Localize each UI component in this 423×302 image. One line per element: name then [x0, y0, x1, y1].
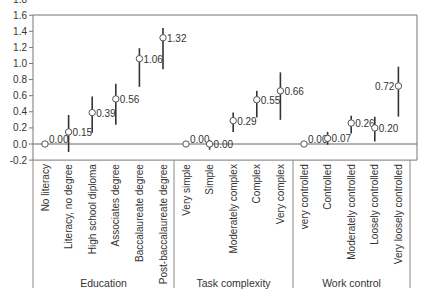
- data-point: 0.00: [42, 134, 69, 147]
- x-axis-labels: No literacyLiteracy, no degreeHigh schoo…: [40, 164, 404, 285]
- data-point: 0.07: [324, 132, 351, 145]
- point-marker: [324, 135, 330, 141]
- data-label: 0.66: [284, 86, 304, 97]
- data-point: 1.06: [136, 48, 163, 87]
- data-label: 0.72: [375, 81, 395, 92]
- data-label: 1.32: [167, 33, 187, 44]
- point-marker: [183, 141, 189, 147]
- point-marker: [160, 35, 166, 41]
- x-category-label: Very complex: [275, 164, 286, 224]
- group-task-complexity: 0.000.000.290.550.66: [183, 72, 305, 150]
- group-work-control: 0.000.070.260.200.72: [301, 67, 402, 147]
- point-marker: [277, 88, 283, 94]
- group-labels: EducationTask complexityWork control: [80, 277, 381, 289]
- y-tick-label: 1.0: [13, 58, 27, 69]
- point-marker: [348, 120, 354, 126]
- y-axis: 1.81.61.41.21.00.80.60.40.20.0-0.2: [10, 0, 33, 166]
- x-category-label: Complex: [251, 164, 262, 203]
- data-label: 0.29: [237, 116, 257, 127]
- data-point: 0.20: [372, 117, 399, 142]
- y-tick-label: 0.4: [13, 106, 27, 117]
- data-label: 0.00: [49, 134, 69, 145]
- y-tick-label: 0.0: [13, 139, 27, 150]
- chart: 1.81.61.41.21.00.80.60.40.20.0-0.2 0.000…: [0, 0, 423, 302]
- x-category-label: Loosely controlled: [369, 164, 380, 245]
- point-marker: [230, 117, 236, 123]
- point-marker: [113, 96, 119, 102]
- point-marker: [372, 125, 378, 131]
- data-point: 0.39: [89, 97, 116, 133]
- point-marker: [395, 83, 401, 89]
- point-marker: [206, 141, 212, 147]
- x-category-label: Associates degree: [110, 164, 121, 247]
- group-label: Education: [80, 277, 127, 289]
- x-category-label: Baccalaureate degree: [134, 164, 145, 262]
- x-category-label: Post-baccalaureate degree: [158, 164, 169, 285]
- data-label: 0.56: [120, 94, 140, 105]
- data-point: 0.72: [375, 67, 402, 117]
- x-category-label: Controlled: [322, 164, 333, 210]
- x-category-label: No literacy: [40, 164, 51, 211]
- data-point: 0.00: [206, 139, 233, 150]
- y-tick-label: -0.2: [10, 155, 28, 166]
- data-series: 0.000.150.390.561.061.320.000.000.290.55…: [42, 28, 402, 152]
- x-category-label: Simple: [204, 164, 215, 195]
- x-category-label: Moderately complex: [228, 164, 239, 253]
- y-tick-label: 1.2: [13, 42, 27, 53]
- data-point: 0.00: [183, 134, 210, 147]
- data-label: 0.39: [96, 108, 116, 119]
- data-point: 0.26: [348, 116, 375, 134]
- data-label: 0.00: [214, 139, 234, 150]
- data-label: 1.06: [143, 54, 163, 65]
- data-point: 0.15: [65, 115, 92, 152]
- group-label: Task complexity: [196, 277, 271, 289]
- y-tick-label: 0.2: [13, 122, 27, 133]
- data-point: 0.56: [113, 84, 140, 125]
- data-point: 0.55: [254, 91, 281, 118]
- point-marker: [65, 129, 71, 135]
- point-marker: [42, 141, 48, 147]
- data-point: 1.32: [160, 28, 187, 69]
- data-point: 0.00: [301, 134, 328, 147]
- point-marker: [254, 97, 260, 103]
- group-label: Work control: [322, 277, 381, 289]
- y-tick-label: 0.6: [13, 90, 27, 101]
- x-category-label: Very loosely controlled: [393, 164, 404, 264]
- y-tick-label: 1.4: [13, 26, 27, 37]
- data-point: 0.29: [230, 113, 257, 132]
- data-label: 0.55: [261, 95, 281, 106]
- x-category-label: High school diploma: [87, 164, 98, 254]
- x-category-label: very controlled: [299, 164, 310, 229]
- point-marker: [136, 55, 142, 61]
- x-category-label: Moderately controlled: [346, 164, 357, 260]
- data-label: 0.15: [73, 127, 93, 138]
- y-tick-label: 1.8: [13, 0, 27, 5]
- y-tick-label: 0.8: [13, 74, 27, 85]
- data-point: 0.66: [277, 72, 304, 119]
- point-marker: [89, 109, 95, 115]
- point-marker: [301, 141, 307, 147]
- y-tick-label: 1.6: [13, 10, 27, 21]
- x-category-label: Literacy, no degree: [63, 164, 74, 249]
- x-category-label: Very simple: [181, 164, 192, 216]
- group-education: 0.000.150.390.561.061.32: [42, 28, 187, 152]
- data-label: 0.20: [379, 123, 399, 134]
- data-label: 0.07: [332, 133, 352, 144]
